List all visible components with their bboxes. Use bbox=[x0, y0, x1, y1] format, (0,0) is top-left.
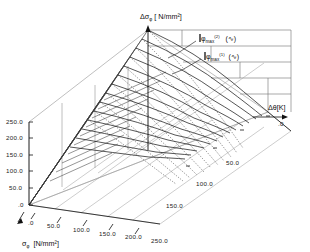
tick-label: 250.0 bbox=[151, 237, 168, 244]
vertical-tick-labels: 250.0 200.0 150.0 100.0 50.0 .0 bbox=[6, 118, 24, 208]
axis-left-scale bbox=[29, 122, 33, 205]
tick-label: 150.0 bbox=[166, 202, 183, 209]
tick-label: 150.0 bbox=[6, 151, 23, 158]
tick-label: .0 bbox=[278, 120, 284, 127]
floor-grid bbox=[29, 63, 291, 224]
tick-label: .0 bbox=[18, 201, 24, 208]
depth-axis-label: Δθ[K] bbox=[268, 103, 286, 112]
tick-label: 100.0 bbox=[73, 226, 90, 233]
tick-label: 50.0 bbox=[47, 222, 61, 229]
bottom-axis-label: σφ [N/mm²] bbox=[22, 239, 59, 249]
tick-label: 200.0 bbox=[125, 233, 142, 240]
tick-label: 100.0 bbox=[196, 180, 213, 187]
tick-label: .0 bbox=[28, 219, 34, 226]
tick-label: 50.0 bbox=[9, 184, 23, 191]
tick-label: 100.0 bbox=[6, 167, 23, 174]
legend-label: φmax(2) (∿) bbox=[201, 34, 236, 43]
plot-canvas: Δσφ [ N/mm²] Δθ[K] σφ [N/mm²] 250.0 200.… bbox=[0, 0, 310, 252]
axis-depth-scale bbox=[186, 112, 291, 166]
vertical-axis-label: Δσφ [ N/mm²] bbox=[140, 12, 182, 22]
legend-frame-lines bbox=[148, 30, 291, 112]
surface-lateral-lines bbox=[29, 30, 148, 205]
figure-3d-surface-plot: Δσφ [ N/mm²] Δθ[K] σφ [N/mm²] 250.0 200.… bbox=[0, 0, 310, 252]
tick-label: 150.0 bbox=[99, 230, 116, 237]
tick-label: 200.0 bbox=[6, 134, 23, 141]
legend-entry-phi-max-1: φmax(1) (∿) bbox=[205, 52, 239, 62]
tick-label: 250.0 bbox=[6, 118, 23, 125]
legend-entry-phi-max-2: φmax(2) (∿) bbox=[200, 34, 236, 44]
tick-label: 50.0 bbox=[226, 159, 240, 166]
